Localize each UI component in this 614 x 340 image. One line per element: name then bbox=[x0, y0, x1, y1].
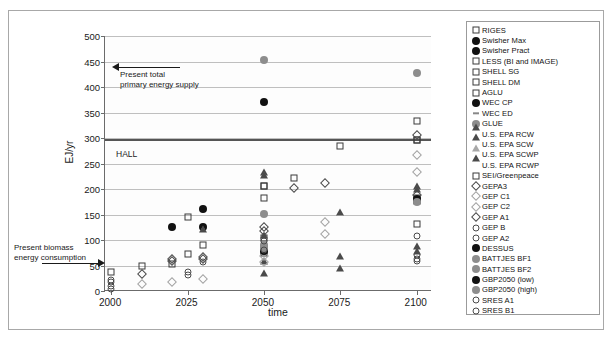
chart-legend: RIGESSwisher MaxSwisher PractLESS (BI an… bbox=[466, 21, 600, 315]
legend-item[interactable]: SHELL DM bbox=[471, 77, 597, 87]
legend-item-label: SEI/Greenpeace bbox=[482, 171, 539, 180]
bottom-annotation-arrow-line bbox=[42, 263, 98, 264]
y-tick-label-0: 0 bbox=[95, 286, 100, 297]
data-point bbox=[167, 277, 177, 287]
bottom-annotation-arrow-head bbox=[98, 259, 105, 267]
hall-label: HALL bbox=[116, 149, 137, 159]
legend-item[interactable]: U.S. EPA RCWP bbox=[471, 160, 597, 170]
legend-item-label: GEP B bbox=[482, 223, 505, 232]
legend-item-label: Swisher Max bbox=[482, 36, 526, 45]
data-point bbox=[199, 241, 206, 248]
legend-item[interactable]: GEP C2 bbox=[471, 202, 597, 212]
legend-item-label: DESSUS bbox=[482, 244, 514, 253]
gridline-y-350 bbox=[105, 113, 431, 114]
data-point bbox=[168, 223, 176, 231]
top-annotation-label: Present total primary energy supply bbox=[120, 70, 199, 90]
legend-item[interactable]: BATTJES BF1 bbox=[471, 254, 597, 264]
legend-item[interactable]: Swisher Pract bbox=[471, 46, 597, 56]
data-point bbox=[412, 150, 422, 160]
legend-marker-icon bbox=[471, 191, 482, 201]
legend-marker-icon bbox=[471, 67, 482, 77]
y-tick-label-300: 300 bbox=[84, 133, 100, 144]
legend-item-label: AGLU bbox=[482, 88, 503, 97]
legend-item[interactable]: GBP2050 (low) bbox=[471, 274, 597, 284]
legend-item[interactable]: GEP C1 bbox=[471, 191, 597, 201]
legend-item[interactable]: GLUE bbox=[471, 119, 597, 129]
data-point bbox=[108, 285, 115, 292]
legend-marker-icon bbox=[471, 160, 482, 170]
legend-item-label: GEP C1 bbox=[482, 192, 510, 201]
legend-marker-icon bbox=[471, 264, 482, 274]
legend-item[interactable]: WEC CP bbox=[471, 98, 597, 108]
legend-item-label: GEP A2 bbox=[482, 234, 509, 243]
legend-item-label: SRES A1 bbox=[482, 296, 514, 305]
data-point bbox=[199, 205, 207, 213]
data-point bbox=[260, 237, 267, 244]
legend-item[interactable]: U.S. EPA SCWP bbox=[471, 150, 597, 160]
legend-item[interactable]: GEP A1 bbox=[471, 212, 597, 222]
data-point bbox=[260, 277, 268, 284]
legend-item[interactable]: SHELL SG bbox=[471, 67, 597, 77]
legend-item[interactable]: WEC ED bbox=[471, 108, 597, 118]
legend-item[interactable]: DESSUS bbox=[471, 243, 597, 253]
legend-item[interactable]: SRES A1 bbox=[471, 295, 597, 305]
legend-item[interactable]: U.S. EPA RCW bbox=[471, 129, 597, 139]
data-point bbox=[108, 277, 115, 284]
x-tick-label-2050: 2050 bbox=[252, 297, 274, 308]
data-point bbox=[260, 56, 268, 64]
legend-marker-icon bbox=[471, 295, 482, 305]
data-point bbox=[290, 184, 300, 194]
legend-item[interactable]: GEP B bbox=[471, 222, 597, 232]
legend-marker-icon bbox=[471, 181, 482, 191]
data-point bbox=[198, 274, 208, 284]
legend-item[interactable]: SRES B1 bbox=[471, 306, 597, 316]
y-tick-label-500: 500 bbox=[84, 31, 100, 42]
legend-item-label: GBP2050 (high) bbox=[482, 285, 537, 294]
legend-item-label: U.S. EPA RCWP bbox=[482, 161, 539, 170]
data-point bbox=[413, 198, 421, 206]
legend-item[interactable]: Swisher Max bbox=[471, 35, 597, 45]
legend-marker-icon bbox=[471, 98, 482, 108]
legend-item[interactable]: GEPA3 bbox=[471, 181, 597, 191]
data-point bbox=[260, 98, 268, 106]
data-point bbox=[320, 217, 330, 227]
legend-marker-icon bbox=[471, 306, 482, 316]
legend-item-label: GLUE bbox=[482, 119, 503, 128]
gridline-y-450 bbox=[105, 62, 431, 63]
legend-item[interactable]: SEI/Greenpeace bbox=[471, 170, 597, 180]
legend-item[interactable]: AGLU bbox=[471, 87, 597, 97]
legend-marker-icon bbox=[471, 223, 482, 233]
y-axis-title: EJ/yr bbox=[64, 141, 75, 164]
x-tick-label-2000: 2000 bbox=[99, 297, 121, 308]
legend-marker-icon bbox=[471, 25, 482, 35]
legend-item-label: GBP2050 (low) bbox=[482, 275, 534, 284]
data-point bbox=[260, 183, 267, 190]
y-tick-label-350: 350 bbox=[84, 107, 100, 118]
y-tick-mark-500 bbox=[101, 36, 105, 37]
y-tick-mark-100 bbox=[101, 240, 105, 241]
legend-item-label: BATTJES BF1 bbox=[482, 254, 531, 263]
legend-marker-icon bbox=[471, 108, 482, 118]
gridline-y-50 bbox=[105, 266, 431, 267]
data-point bbox=[260, 195, 267, 202]
legend-item[interactable]: GBP2050 (high) bbox=[471, 285, 597, 295]
legend-item-label: RIGES bbox=[482, 26, 506, 35]
y-tick-mark-200 bbox=[101, 189, 105, 190]
data-point bbox=[199, 258, 206, 265]
x-tick-mark-2025 bbox=[188, 291, 189, 295]
hall-reference-line bbox=[105, 139, 431, 141]
legend-item[interactable]: RIGES bbox=[471, 25, 597, 35]
legend-marker-icon bbox=[471, 285, 482, 295]
legend-item[interactable]: GEP A2 bbox=[471, 233, 597, 243]
data-point bbox=[320, 178, 330, 188]
legend-item[interactable]: BATTJES BF2 bbox=[471, 264, 597, 274]
data-point bbox=[184, 269, 191, 276]
figure-root: EJ/yr time RIGESSwisher MaxSwisher Pract… bbox=[0, 0, 614, 340]
data-point bbox=[184, 250, 191, 257]
legend-item[interactable]: LESS (BI and IMAGE) bbox=[471, 56, 597, 66]
data-point bbox=[108, 268, 115, 275]
data-point bbox=[260, 210, 268, 218]
y-tick-label-200: 200 bbox=[84, 184, 100, 195]
legend-item[interactable]: U.S. EPA SCW bbox=[471, 139, 597, 149]
y-tick-mark-150 bbox=[101, 215, 105, 216]
